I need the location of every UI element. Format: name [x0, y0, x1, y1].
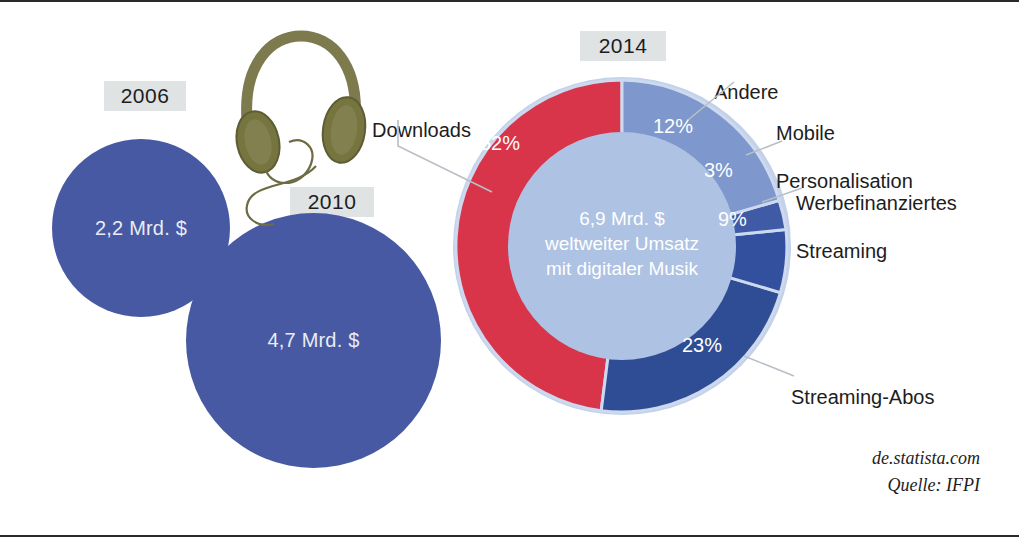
year-label-2006: 2006 [121, 84, 170, 107]
callout-werbe-line-1: Werbefinanziertes [796, 192, 957, 214]
leader-line-streaming-abos [742, 352, 796, 388]
source-block: de.statista.com Quelle: IFPI [700, 445, 980, 499]
infographic-canvas: 2006 2,2 Mrd. $ 2010 4,7 Mrd. $ 2014 [0, 0, 1019, 537]
callout-mobile-line-1: Mobile [776, 122, 835, 144]
year-label-2014: 2014 [599, 34, 648, 57]
callout-abos-label: Streaming-Abos [791, 386, 934, 408]
headphone-cable-extension [196, 148, 326, 248]
callout-werbefinanziertes-streaming: Werbefinanziertes Streaming [796, 167, 957, 263]
callout-streaming-abos: Streaming-Abos [791, 361, 934, 409]
leader-line-andere [676, 80, 736, 130]
bubble-2006-value: 2,2 Mrd. $ [95, 217, 187, 240]
year-chip-2006: 2006 [104, 81, 186, 111]
source-site: de.statista.com [700, 445, 980, 472]
leader-line-werbefinanziertes [760, 186, 804, 210]
bubble-2010: 4,7 Mrd. $ [186, 213, 441, 468]
donut-inner-circle [508, 132, 736, 360]
source-credit: Quelle: IFPI [700, 472, 980, 499]
leader-line-downloads [396, 118, 516, 208]
year-chip-2014: 2014 [580, 31, 666, 61]
leader-line-mobile [744, 135, 784, 165]
bubble-2010-value: 4,7 Mrd. $ [267, 329, 359, 352]
callout-werbe-line-2: Streaming [796, 240, 887, 262]
